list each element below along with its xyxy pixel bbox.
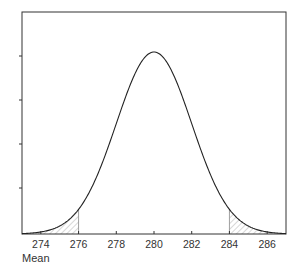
x-tick-label: 286 — [258, 238, 276, 250]
x-tick-label: 282 — [183, 238, 201, 250]
x-tick-label: 280 — [145, 238, 163, 250]
x-tick-label: 278 — [108, 238, 126, 250]
normal-curve-chart: 274276278280282284286 — [0, 0, 299, 272]
tail-boundary-lines — [79, 209, 230, 234]
normal-curve — [22, 52, 286, 234]
shaded-tail-regions — [22, 209, 286, 234]
x-tick-label: 276 — [70, 238, 88, 250]
plot-frame — [22, 12, 286, 234]
x-tick-label: 284 — [221, 238, 239, 250]
x-axis-label: Mean — [22, 252, 50, 264]
x-tick-label: 274 — [32, 238, 50, 250]
